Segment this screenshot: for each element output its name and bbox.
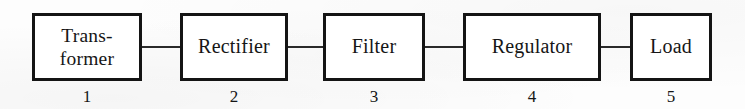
block-label-transformer: Trans- former (58, 24, 116, 70)
block-index-2: 2 (180, 88, 288, 105)
connector-transformer-rectifier (142, 46, 180, 48)
block-load[interactable]: Load (630, 13, 712, 81)
connector-regulator-load (601, 46, 630, 48)
block-label-rectifier: Rectifier (196, 36, 272, 58)
block-label-load: Load (648, 36, 694, 58)
block-label-filter: Filter (350, 36, 399, 58)
block-label-regulator: Regulator (490, 36, 575, 58)
block-index-5: 5 (630, 88, 712, 105)
connector-filter-regulator (425, 46, 463, 48)
block-diagram: Trans- former Rectifier Filter Regulator… (0, 0, 745, 109)
block-index-1: 1 (32, 88, 142, 105)
block-filter[interactable]: Filter (323, 13, 425, 81)
block-index-4: 4 (463, 88, 601, 105)
block-index-3: 3 (323, 88, 425, 105)
block-transformer[interactable]: Trans- former (32, 13, 142, 81)
connector-rectifier-filter (288, 46, 323, 48)
block-regulator[interactable]: Regulator (463, 13, 601, 81)
block-rectifier[interactable]: Rectifier (180, 13, 288, 81)
